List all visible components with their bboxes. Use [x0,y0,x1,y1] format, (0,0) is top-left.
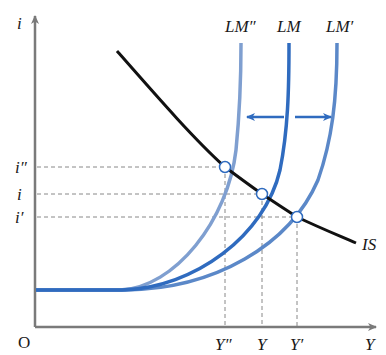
is-label: IS [361,235,377,254]
i-label: i [17,185,22,204]
equilibrium-point [257,189,268,200]
i-prime-label: i′ [15,208,24,227]
i-double-prime-label: i″ [15,158,28,177]
lm-label: LM [276,17,301,36]
equilibrium-point-double-prime [220,162,231,173]
y-double-prime-label: Y″ [215,335,232,354]
lm-prime-label: LM′ [325,17,354,36]
y-prime-label: Y′ [290,335,303,354]
y-axis-label: i [17,14,22,33]
islm-diagram: i Y O LM″ LM LM′ IS i″ i i′ Y″ Y Y′ [0,0,386,355]
origin-label: O [18,333,30,352]
equilibrium-point-prime [292,212,303,223]
lm-double-prime-label: LM″ [224,17,257,36]
y-label: Y [257,335,268,354]
x-axis-label: Y [365,335,376,354]
